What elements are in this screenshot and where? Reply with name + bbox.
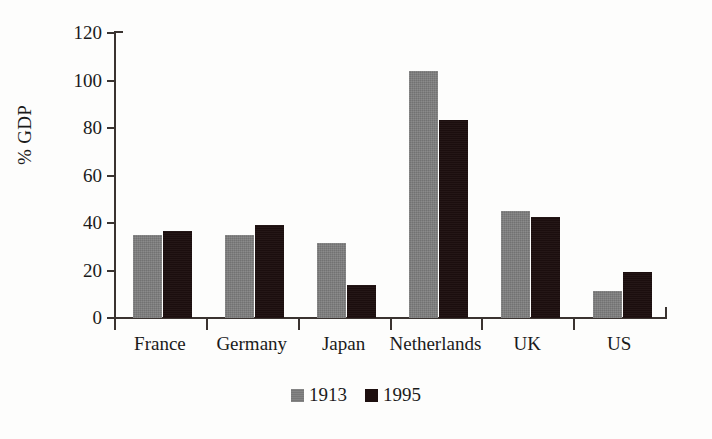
x-label-us: US: [553, 332, 685, 356]
bar-us-1995: [623, 272, 652, 318]
x-axis-end-cap: [665, 307, 667, 319]
bar-chart: % GDP 020406080100120 FranceGermanyJapan…: [0, 0, 712, 439]
x-tick: [206, 319, 208, 330]
x-tick: [481, 319, 483, 330]
legend-swatch-1995: [365, 389, 378, 402]
x-tick: [390, 319, 392, 330]
bar-japan-1913: [317, 243, 346, 318]
legend-item-1913: 1913: [291, 384, 347, 406]
y-tick-label-wrap: 80: [52, 118, 102, 137]
bar-uk-1995: [531, 217, 560, 318]
y-tick-label: 0: [58, 308, 102, 327]
bar-germany-1995: [255, 225, 284, 318]
bar-france-1913: [133, 235, 162, 318]
y-axis-title: % GDP: [14, 70, 44, 200]
y-tick-label-wrap: 40: [52, 213, 102, 232]
bar-germany-1913: [225, 235, 254, 318]
y-tick-label-wrap: 120: [52, 23, 102, 42]
legend-swatch-1913: [291, 389, 304, 402]
legend-label-1995: 1995: [383, 384, 421, 406]
bar-netherlands-1913: [409, 71, 438, 318]
plot-area: [114, 33, 665, 318]
y-tick-label-wrap: 20: [52, 261, 102, 280]
x-tick-origin: [114, 319, 116, 330]
y-tick-label: 20: [58, 261, 102, 280]
bar-uk-1913: [501, 211, 530, 318]
legend-item-1995: 1995: [365, 384, 421, 406]
y-tick-label: 40: [58, 213, 102, 232]
legend-label-1913: 1913: [309, 384, 347, 406]
x-tick: [573, 319, 575, 330]
y-tick-label: 100: [58, 71, 102, 90]
y-tick-label-wrap: 100: [52, 71, 102, 90]
chart-legend: 19131995: [0, 384, 712, 406]
y-tick-label-wrap: 60: [52, 166, 102, 185]
bar-france-1995: [163, 231, 192, 318]
x-tick: [298, 319, 300, 330]
y-tick-label: 80: [58, 118, 102, 137]
y-tick-label: 120: [58, 23, 102, 42]
y-tick-label-wrap: 0: [52, 308, 102, 327]
bar-japan-1995: [347, 285, 376, 318]
bar-us-1913: [593, 291, 622, 318]
bar-netherlands-1995: [439, 120, 468, 318]
y-tick-label: 60: [58, 166, 102, 185]
